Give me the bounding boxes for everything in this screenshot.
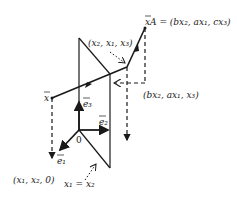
label-ground-point: (x₁, x₂, 0): [13, 175, 55, 185]
label-plane-equation: x₁ = x₂: [64, 179, 95, 189]
label-reflected-point: (x₂, x₁, x₃): [88, 38, 133, 48]
label-e1: e₁: [57, 156, 66, 166]
label-origin: 0: [76, 135, 82, 145]
label-e3: e₃: [83, 99, 92, 109]
label-e2: e₂: [99, 117, 108, 127]
label-projected-point: (bx₂, ax₁, x₃): [143, 90, 199, 100]
vector-overbars: [44, 16, 151, 155]
label-x: x: [44, 93, 49, 103]
label-xA: xA = (bx₂, ax₁, cx₃): [145, 17, 231, 27]
point-x: [51, 97, 54, 100]
diagram-svg: x e₃ e₂ e₁ 0 (x₂, x₁, x₃) xA = (bx₂, ax₁…: [0, 0, 237, 201]
diagram-canvas: x e₃ e₂ e₁ 0 (x₂, x₁, x₃) xA = (bx₂, ax₁…: [0, 0, 237, 201]
direction-arrow-1: [85, 82, 92, 88]
